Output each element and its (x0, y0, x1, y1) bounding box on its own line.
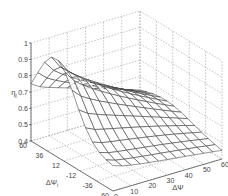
x-tick-label: 20 (148, 182, 156, 189)
z-tick-label: 0.8 (18, 72, 28, 79)
x-tick-label: 60 (221, 161, 228, 168)
y-tick-label: -36 (82, 182, 92, 189)
y-tick-label: 12 (52, 162, 60, 169)
x-tick-label: 10 (130, 188, 138, 195)
z-tick-label: 0.5 (18, 121, 28, 128)
x-axis-label: ΔΨ (172, 183, 183, 192)
z-tick-label: 0.9 (18, 56, 28, 63)
y-tick-label: 60 (19, 142, 27, 149)
z-axis-label: ηj (11, 88, 16, 98)
y-axis-label-subscript: i (57, 182, 58, 188)
y-axis-label: ΔΨi (46, 178, 58, 188)
gridline-side-z (140, 27, 222, 77)
gridline-side-z (140, 44, 222, 94)
z-axis-label-subscript: j (15, 92, 17, 98)
x-tick-label: 40 (185, 172, 193, 179)
x-tick-label: 50 (203, 166, 211, 173)
y-tick-label: 36 (36, 152, 44, 159)
y-tick-label: -12 (66, 172, 76, 179)
gridline-back-z (31, 11, 140, 43)
z-tick-label: 0.7 (18, 89, 28, 96)
gridline-side-z (140, 11, 222, 61)
z-tick-label: 0.6 (18, 105, 28, 112)
surface-plot: 0.40.50.60.70.80.91603612-12-36-60010203… (0, 0, 228, 196)
surface-mesh (31, 57, 222, 166)
y-tick-label: -60 (99, 192, 109, 196)
x-tick-label: 0 (114, 193, 118, 196)
z-tick-label: 1 (24, 40, 28, 47)
